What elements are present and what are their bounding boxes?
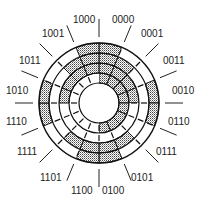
leader-line	[67, 164, 74, 181]
sector-labels: 0000000100110010011001110101010011001101…	[6, 14, 195, 196]
sector-label: 0110	[168, 116, 190, 127]
sector-label: 0011	[163, 55, 185, 66]
gray-code-disk: 0000000100110010011001110101010011001101…	[0, 0, 201, 210]
leader-line	[146, 44, 159, 57]
leader-line	[160, 128, 177, 135]
leader-line	[21, 128, 38, 135]
sector-label: 1101	[40, 172, 62, 183]
ring-circle	[79, 83, 119, 123]
sector-label: 1111	[17, 146, 37, 157]
sector-label: 1000	[73, 14, 96, 25]
sector-label: 0101	[131, 172, 154, 183]
leader-line	[160, 71, 177, 78]
leader-line	[124, 25, 131, 42]
leader-line	[40, 150, 53, 163]
leader-line	[67, 25, 74, 42]
sector-label: 1001	[42, 28, 65, 39]
sector-label: 1010	[6, 85, 29, 96]
sector-label: 0111	[156, 146, 177, 157]
leader-line	[40, 44, 53, 57]
sector-label: 0010	[172, 85, 195, 96]
sector-label: 1110	[6, 116, 27, 127]
sector-label: 1100	[71, 185, 93, 196]
sector-label: 0001	[141, 28, 164, 39]
sector-label: 0000	[112, 14, 135, 25]
sector-label: 1011	[19, 55, 41, 66]
leader-line	[21, 71, 38, 78]
sector-label: 0100	[102, 185, 125, 196]
